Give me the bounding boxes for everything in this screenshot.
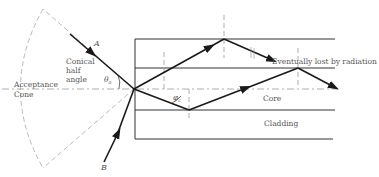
cone-lower-edge: [43, 89, 134, 168]
label-conical-2: half: [66, 66, 82, 75]
ray-a-reflected: [224, 39, 272, 60]
ray-a-to-peak: [208, 39, 224, 48]
label-ray-a: A: [93, 39, 100, 48]
ray-a-incident: [70, 34, 92, 53]
label-cladding: Cladding: [264, 119, 298, 128]
label-theta: θa: [104, 75, 112, 85]
label-ray-b: B: [100, 163, 107, 172]
label-cone: Cone: [14, 90, 34, 99]
label-radiation: Eventually lost by radiation: [272, 57, 377, 66]
label-acceptance: Acceptance: [13, 80, 59, 89]
ray-b-to-peak: [244, 68, 298, 89]
label-core: Core: [263, 94, 282, 103]
label-conical-1: Conical: [66, 57, 95, 66]
label-phi: φc: [173, 93, 181, 103]
ray-a-incident-tail: [90, 51, 134, 89]
ray-b: [104, 68, 334, 162]
ray-a: [70, 34, 272, 89]
ray-b-reflected: [189, 88, 246, 110]
ray-b-incident: [104, 133, 118, 162]
ray-b-second-reflection: [298, 68, 334, 87]
fiber-acceptance-diagram: A B Conical half angle θa φc Acceptance …: [0, 0, 379, 177]
label-conical-3: angle: [66, 75, 88, 84]
